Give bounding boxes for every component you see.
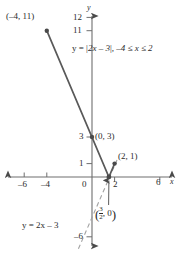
vertex-suffix: , 0 (103, 208, 112, 218)
x-tick-label-neg4: –4 (41, 180, 50, 189)
dashed-line-equation-label: y = 2x – 3 (22, 221, 59, 230)
point-vertex-dot (107, 175, 112, 180)
graph-equation-label: y = |2x – 3|, –4 ≤ x ≤ 2 (72, 44, 153, 53)
x-tick-label-six: 6 (156, 178, 161, 187)
equation-abs-inner: 2x – 3 (88, 43, 110, 53)
point-left-endpoint-dot (45, 29, 49, 33)
paren-close: ) (112, 207, 116, 222)
y-tick-label-neg6: –6 (74, 232, 83, 241)
x-tick-label-neg6: –6 (18, 180, 27, 189)
y-tick-label-1: 1 (79, 159, 84, 168)
graph-figure: y x 12 11 3 1 –6 0 –6 –4 2 6 (–4, 11) (0… (0, 0, 180, 262)
point-right-endpoint-dot (112, 161, 116, 165)
point-y-intercept-label: (0, 3) (95, 132, 115, 141)
origin-label: 0 (82, 180, 87, 189)
y-axis-label: y (87, 4, 91, 12)
y-tick-label-12: 12 (73, 13, 82, 22)
x-tick-label-two: 2 (113, 180, 118, 189)
y-tick-label-3: 3 (79, 132, 84, 141)
equation-domain: , –4 ≤ x ≤ 2 (112, 43, 153, 53)
point-y-intercept-dot (90, 135, 94, 139)
point-right-endpoint-label: (2, 1) (118, 152, 138, 161)
x-axis-label: x (170, 178, 174, 186)
vertex-fraction-label: (32, 0) (95, 206, 116, 222)
y-tick-label-11: 11 (73, 26, 82, 35)
point-left-endpoint-label: (–4, 11) (6, 12, 34, 21)
vertex-fraction-numerator: 3 (99, 206, 103, 213)
vertex-fraction-denominator: 2 (99, 213, 103, 221)
equation-lhs: y = (72, 43, 86, 53)
vertex-fraction: 32 (99, 206, 103, 222)
